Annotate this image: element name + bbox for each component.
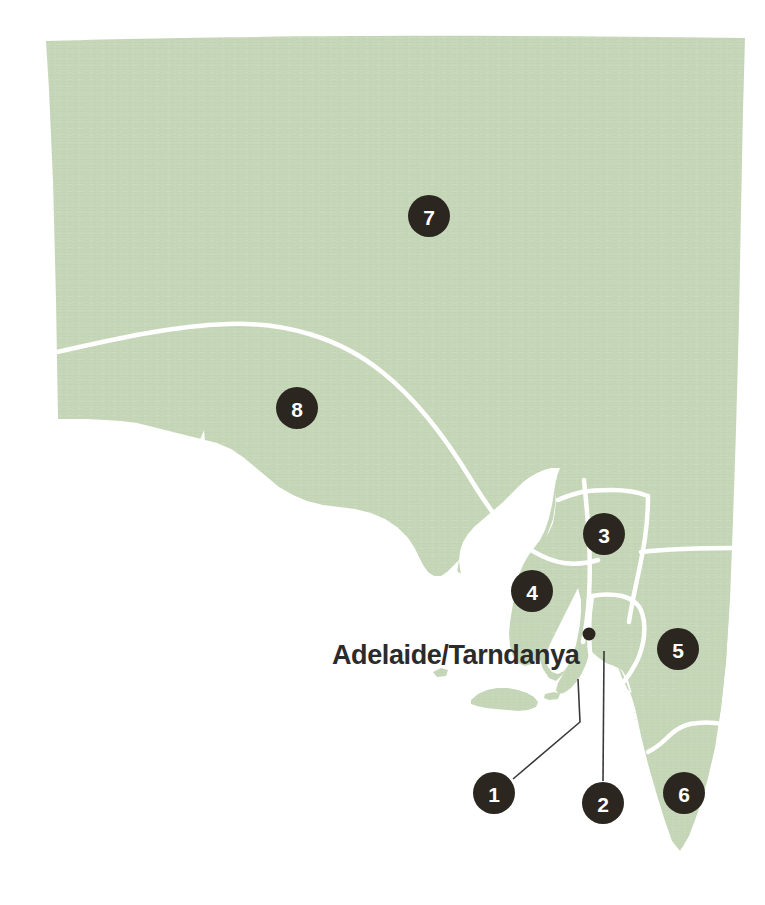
marker-5-label: 5	[672, 639, 684, 662]
marker-2-label: 2	[597, 793, 609, 816]
adelaide-city-label: Adelaide/Tarndanya	[332, 640, 581, 670]
marker-4-label: 4	[526, 581, 538, 604]
marker-3[interactable]: 3	[583, 513, 625, 555]
marker-3-label: 3	[598, 524, 610, 547]
marker-7-label: 7	[423, 206, 435, 229]
map-container: Adelaide/Tarndanya 1 2 3 4 5	[0, 0, 765, 905]
marker-1-label: 1	[488, 783, 500, 806]
kangaroo-island-east-tip	[544, 692, 560, 700]
marker-2[interactable]: 2	[582, 782, 624, 824]
marker-1[interactable]: 1	[473, 772, 515, 814]
adelaide-city-dot	[583, 628, 596, 641]
marker-6[interactable]: 6	[663, 772, 705, 814]
marker-8[interactable]: 8	[276, 387, 318, 429]
leader-line-2	[603, 651, 604, 781]
marker-4[interactable]: 4	[511, 570, 553, 612]
kangaroo-island	[471, 688, 538, 711]
map-graphic: Adelaide/Tarndanya 1 2 3 4 5	[0, 0, 765, 905]
marker-7[interactable]: 7	[408, 195, 450, 237]
marker-8-label: 8	[291, 398, 303, 421]
marker-5[interactable]: 5	[657, 628, 699, 670]
marker-6-label: 6	[678, 783, 690, 806]
landmass-group	[46, 36, 745, 905]
